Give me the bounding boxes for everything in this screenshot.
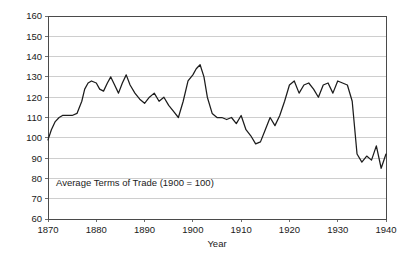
- x-axis-title: Year: [207, 238, 226, 249]
- y-tick-labels-group: 60708090100110120130140150160: [26, 10, 42, 224]
- y-tick-label-100: 100: [26, 132, 42, 143]
- x-tick-label-1920: 1920: [279, 224, 300, 235]
- x-tick-label-1890: 1890: [134, 224, 155, 235]
- y-tick-label-110: 110: [27, 112, 42, 123]
- x-tick-labels-group: 18701880189019001910192019301940: [37, 224, 396, 235]
- chart-annotation: Average Terms of Trade (1900 = 100): [56, 177, 214, 188]
- y-tick-label-140: 140: [26, 51, 42, 62]
- x-tick-label-1880: 1880: [86, 224, 107, 235]
- terms-of-trade-line: [48, 65, 386, 169]
- y-tick-label-120: 120: [26, 92, 42, 103]
- y-tick-label-150: 150: [26, 31, 42, 42]
- y-tick-label-160: 160: [26, 10, 42, 21]
- x-tick-label-1910: 1910: [231, 224, 252, 235]
- x-tick-label-1940: 1940: [375, 224, 396, 235]
- gridlines-group: [48, 16, 386, 199]
- x-tick-label-1930: 1930: [327, 224, 348, 235]
- y-tick-label-80: 80: [31, 173, 42, 184]
- y-tick-label-70: 70: [31, 193, 42, 204]
- y-tick-label-130: 130: [26, 71, 42, 82]
- terms-of-trade-chart: 60708090100110120130140150160 1870188018…: [0, 0, 404, 258]
- x-tick-label-1870: 1870: [37, 224, 58, 235]
- chart-canvas: 60708090100110120130140150160 1870188018…: [0, 0, 404, 258]
- y-tick-label-60: 60: [31, 213, 42, 224]
- x-tick-label-1900: 1900: [182, 224, 203, 235]
- y-tick-label-90: 90: [31, 153, 42, 164]
